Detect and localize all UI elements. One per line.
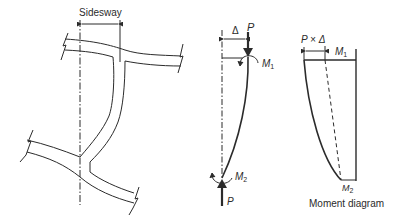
top-beam-lower-edge	[65, 50, 113, 57]
top-moment-label: M1	[262, 59, 274, 70]
moment-bottom-subscript: 2	[350, 187, 354, 194]
moment-top-label: M1	[335, 47, 347, 58]
top-beam-right-lower-edge	[125, 61, 181, 66]
break-line-bottom-right	[129, 187, 139, 215]
frame-figure	[20, 20, 183, 215]
moment-diagram-figure	[304, 46, 356, 181]
deflected-column	[222, 57, 248, 178]
break-line-bottom-left	[20, 130, 33, 162]
column-left-edge	[80, 57, 114, 157]
bottom-beam-right-upper-edge	[90, 172, 134, 193]
p-delta-label: P × Δ	[301, 35, 325, 45]
moment-top-subscript: 1	[343, 51, 347, 58]
moment-curve	[304, 60, 341, 180]
moment-diagram-caption: Moment diagram	[309, 199, 384, 209]
break-line-top-left	[61, 33, 68, 60]
diagram-canvas	[0, 0, 399, 220]
column-figure	[210, 30, 258, 206]
column-right-edge	[90, 61, 125, 162]
top-moment-subscript: 1	[270, 63, 274, 70]
bottom-moment-subscript: 2	[243, 176, 247, 183]
delta-label: Δ	[232, 26, 239, 36]
first-order-moment-line	[325, 60, 341, 180]
top-moment-arrowhead	[238, 61, 243, 66]
sidesway-label: Sidesway	[79, 8, 122, 18]
bottom-moment-arrowhead	[210, 173, 215, 178]
top-beam-upper-edge	[65, 39, 181, 56]
top-load-label: P	[247, 22, 254, 33]
bottom-load-label: P	[227, 197, 234, 207]
bottom-moment-label: M2	[235, 172, 247, 183]
moment-bottom-symbol: M	[342, 183, 350, 193]
moment-bottom-label: M2	[342, 184, 353, 194]
break-line-top-right	[178, 44, 183, 73]
